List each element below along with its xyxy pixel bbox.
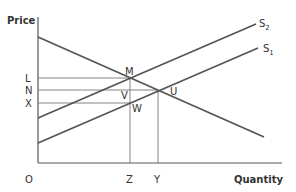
y-axis-title: Price xyxy=(7,15,36,26)
point-label-M: M xyxy=(125,66,134,77)
supply-curve-s1 xyxy=(38,48,258,143)
point-label-V: V xyxy=(121,90,128,101)
s1-label: S1 xyxy=(263,43,274,57)
point-label-U: U xyxy=(170,86,177,97)
x-axis-title: Quantity xyxy=(234,174,283,185)
origin-label: O xyxy=(25,174,33,185)
demand-curve xyxy=(38,37,264,137)
price-label-X: X xyxy=(25,98,32,109)
supply-curve-s2 xyxy=(38,24,256,118)
supply-demand-diagram: Price Quantity O L N X Z Y M U V W S2 S1 xyxy=(0,0,296,192)
point-label-W: W xyxy=(132,103,142,114)
price-label-L: L xyxy=(25,73,31,84)
s2-label: S2 xyxy=(259,18,270,32)
price-label-N: N xyxy=(25,85,32,96)
quantity-label-Z: Z xyxy=(126,174,133,185)
quantity-label-Y: Y xyxy=(153,174,161,185)
